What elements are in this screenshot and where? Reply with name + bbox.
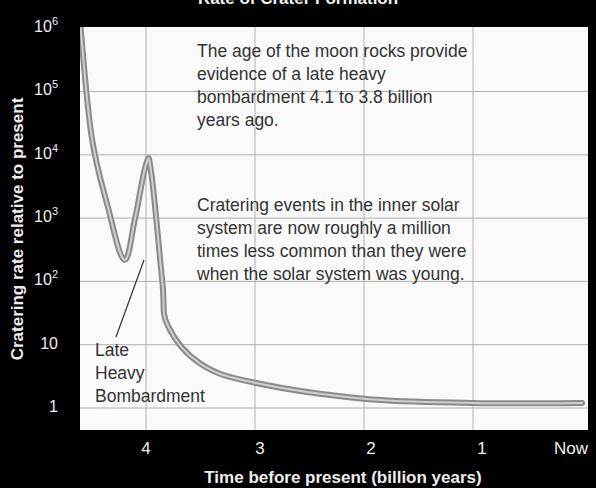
annotation-cratering-events: Cratering events in the inner solar syst… xyxy=(197,194,466,286)
chart-title: Rate of Crater Formation xyxy=(0,0,596,9)
lhb-line: Late xyxy=(95,339,205,362)
x-tick-4: 4 xyxy=(121,439,171,459)
note-line: Cratering events in the inner solar xyxy=(197,194,466,217)
x-tick-2: 2 xyxy=(346,439,396,459)
annotation-late-heavy-bombardment: Late Heavy Bombardment xyxy=(95,339,205,408)
annotation-moon-rocks: The age of the moon rocks provide eviden… xyxy=(197,40,467,132)
x-axis-label: Time before present (billion years) xyxy=(0,468,596,488)
note-line: evidence of a late heavy xyxy=(197,63,467,86)
lhb-line: Bombardment xyxy=(95,385,205,408)
y-axis-label: Cratering rate relative to present xyxy=(8,74,28,384)
x-tick-3: 3 xyxy=(235,439,285,459)
y-tick-1e6: 106 xyxy=(2,18,58,36)
note-line: when the solar system was young. xyxy=(197,263,466,286)
note-line: The age of the moon rocks provide xyxy=(197,40,467,63)
note-line: system are now roughly a million xyxy=(197,217,466,240)
y-tick-1: 1 xyxy=(2,398,58,416)
note-line: times less common than they were xyxy=(197,240,466,263)
lhb-pointer-line xyxy=(116,260,144,337)
lhb-line: Heavy xyxy=(95,362,205,385)
note-line: bombardment 4.1 to 3.8 billion xyxy=(197,86,467,109)
x-tick-1: 1 xyxy=(457,439,507,459)
note-line: years ago. xyxy=(197,109,467,132)
x-tick-now: Now xyxy=(546,439,596,459)
